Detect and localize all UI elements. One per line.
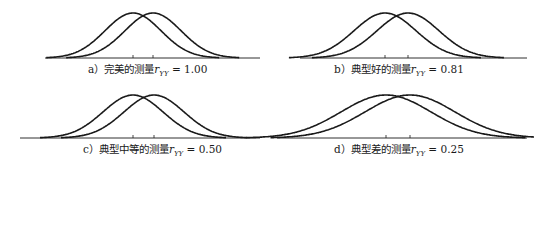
caption-d-symbol: r xyxy=(411,143,416,155)
caption-b-subscript: YY xyxy=(416,70,425,78)
caption-d-subscript: YY xyxy=(416,150,425,158)
caption-c-subscript: YY xyxy=(174,150,183,158)
caption-a-text: a）完美的测量 xyxy=(88,63,154,75)
caption-d-value: = 0.25 xyxy=(428,143,464,155)
caption-c: c）典型中等的测量rYY = 0.50 xyxy=(83,143,222,157)
caption-a: a）完美的测量rYY = 1.00 xyxy=(88,63,207,77)
caption-d: d）典型差的测量rYY = 0.25 xyxy=(334,143,464,157)
caption-b-symbol: r xyxy=(411,63,416,75)
caption-a-subscript: YY xyxy=(159,70,168,78)
caption-b-value: = 0.81 xyxy=(428,63,464,75)
caption-c-value: = 0.50 xyxy=(187,143,223,155)
caption-b: b）典型好的测量rYY = 0.81 xyxy=(334,63,464,77)
caption-b-text: b）典型好的测量 xyxy=(334,63,411,75)
distribution-curve-2 xyxy=(271,95,534,138)
caption-c-text: c）典型中等的测量 xyxy=(83,143,169,155)
caption-d-text: d）典型差的测量 xyxy=(334,143,411,155)
caption-a-value: = 1.00 xyxy=(172,63,208,75)
